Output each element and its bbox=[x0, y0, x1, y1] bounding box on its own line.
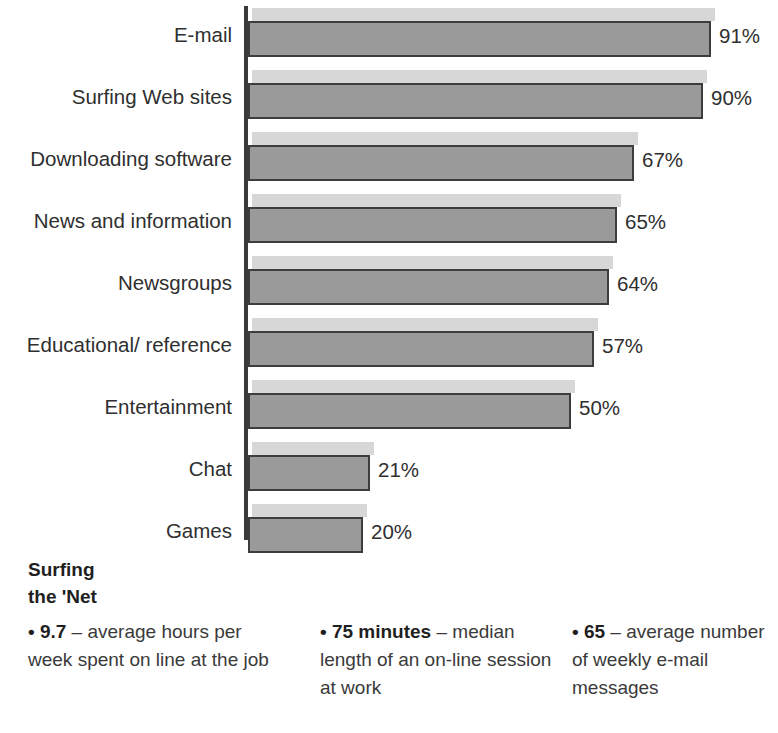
fact-lead: • 9.7 bbox=[28, 621, 66, 642]
bar-category-label: E-mail bbox=[0, 22, 232, 48]
bar-value-label: 57% bbox=[602, 333, 643, 359]
bar-row: Newsgroups64% bbox=[0, 254, 778, 316]
bar-segment bbox=[248, 517, 363, 553]
bar-row: Surfing Web sites90% bbox=[0, 68, 778, 130]
bar-row: Educational/ reference57% bbox=[0, 316, 778, 378]
bar-shadow bbox=[252, 380, 575, 393]
bar-shadow bbox=[252, 318, 598, 331]
horizontal-bar-chart: E-mail91%Surfing Web sites90%Downloading… bbox=[0, 0, 778, 548]
fact-lead: • 75 minutes bbox=[320, 621, 431, 642]
bar-value-label: 21% bbox=[378, 457, 419, 483]
bar-row: Entertainment50% bbox=[0, 378, 778, 440]
fact-lead: • 65 bbox=[572, 621, 605, 642]
bar-row: Games20% bbox=[0, 502, 778, 564]
bar-segment bbox=[248, 455, 370, 491]
bar-category-label: Entertainment bbox=[0, 394, 232, 420]
bar-value-label: 67% bbox=[642, 147, 683, 173]
footer-heading: Surfing the 'Net bbox=[28, 556, 298, 610]
bar-category-label: Downloading software bbox=[0, 146, 232, 172]
bar-shadow bbox=[252, 442, 374, 455]
bar-row: News and information65% bbox=[0, 192, 778, 254]
bar-segment bbox=[248, 21, 711, 57]
bar-segment bbox=[248, 207, 617, 243]
bar-category-label: Educational/ reference bbox=[0, 332, 232, 358]
bar-row: Chat21% bbox=[0, 440, 778, 502]
bar-shadow bbox=[252, 70, 707, 83]
bar-value-label: 91% bbox=[719, 23, 760, 49]
fact-item: • 9.7 – average hours per week spent on … bbox=[28, 618, 288, 674]
bar-category-label: Newsgroups bbox=[0, 270, 232, 296]
bar-segment bbox=[248, 83, 703, 119]
bar-value-label: 65% bbox=[625, 209, 666, 235]
bar-shadow bbox=[252, 194, 621, 207]
bar-shadow bbox=[252, 504, 367, 517]
bar-category-label: News and information bbox=[0, 208, 232, 234]
bar-shadow bbox=[252, 256, 613, 269]
bar-row: E-mail91% bbox=[0, 6, 778, 68]
bar-segment bbox=[248, 331, 594, 367]
bar-value-label: 90% bbox=[711, 85, 752, 111]
bar-segment bbox=[248, 393, 571, 429]
bar-category-label: Chat bbox=[0, 456, 232, 482]
bar-category-label: Surfing Web sites bbox=[0, 84, 232, 110]
bar-value-label: 64% bbox=[617, 271, 658, 297]
fact-item: • 65 – average number of weekly e-mail m… bbox=[572, 618, 772, 702]
bar-shadow bbox=[252, 132, 638, 145]
footer-facts-section: Surfing the 'Net • 9.7 – average hours p… bbox=[0, 556, 778, 733]
bar-category-label: Games bbox=[0, 518, 232, 544]
bar-value-label: 20% bbox=[371, 519, 412, 545]
bar-segment bbox=[248, 145, 634, 181]
bar-value-label: 50% bbox=[579, 395, 620, 421]
bar-shadow bbox=[252, 8, 715, 21]
bar-row: Downloading software67% bbox=[0, 130, 778, 192]
fact-item: • 75 minutes – median length of an on-li… bbox=[320, 618, 570, 702]
bar-segment bbox=[248, 269, 609, 305]
infographic-page: E-mail91%Surfing Web sites90%Downloading… bbox=[0, 0, 778, 733]
